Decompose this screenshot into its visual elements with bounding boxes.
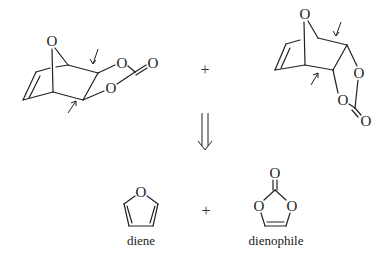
carbonyl-oxygen: O (148, 55, 159, 71)
retrosynthesis-diagram: O O O O + O (0, 0, 392, 271)
retrosynthesis-arrow-icon (198, 113, 212, 150)
furan-oxygen: O (136, 184, 147, 200)
plus-sign: + (201, 202, 210, 219)
vinylene-carbonate-dienophile: O O O dienophile (249, 165, 304, 248)
carbonyl-oxygen: O (361, 113, 372, 129)
ring-oxygen-2: O (338, 92, 349, 108)
carbonyl-oxygen: O (270, 165, 281, 181)
left-adduct: O O O O (23, 33, 159, 113)
ring-oxygen-1: O (354, 65, 365, 81)
ring-oxygen-1: O (117, 55, 128, 71)
pointer-arrow-icon (93, 49, 98, 64)
pointer-arrow-icon (336, 22, 341, 36)
furan-diene: O diene (124, 184, 158, 248)
plus-sign: + (200, 61, 209, 78)
bridge-oxygen: O (47, 33, 58, 49)
diene-label: diene (127, 233, 155, 248)
ring-oxygen-2: O (287, 198, 298, 214)
dienophile-label: dienophile (249, 233, 304, 248)
ring-oxygen-2: O (106, 80, 117, 96)
ring-oxygen-1: O (254, 198, 265, 214)
bridge-oxygen: O (300, 6, 311, 22)
right-adduct: O O O O (275, 6, 372, 129)
